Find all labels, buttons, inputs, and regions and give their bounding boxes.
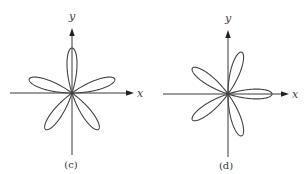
x-axis-label: x bbox=[137, 87, 144, 100]
y-axis-arrow-icon bbox=[225, 30, 230, 38]
rose-curves-figure: x y (c) x y (d) bbox=[0, 0, 304, 174]
panel-label: (d) bbox=[219, 160, 233, 171]
panel-c: x y (c) bbox=[10, 10, 144, 170]
y-axis-label: y bbox=[68, 10, 76, 23]
panel-d: x y (d) bbox=[163, 12, 299, 171]
y-axis-label: y bbox=[224, 12, 232, 25]
x-axis-arrow-icon bbox=[126, 90, 134, 95]
x-axis-label: x bbox=[292, 88, 299, 101]
y-axis-arrow-icon bbox=[69, 28, 74, 36]
panel-label: (c) bbox=[64, 159, 78, 170]
x-axis-arrow-icon bbox=[281, 91, 289, 96]
